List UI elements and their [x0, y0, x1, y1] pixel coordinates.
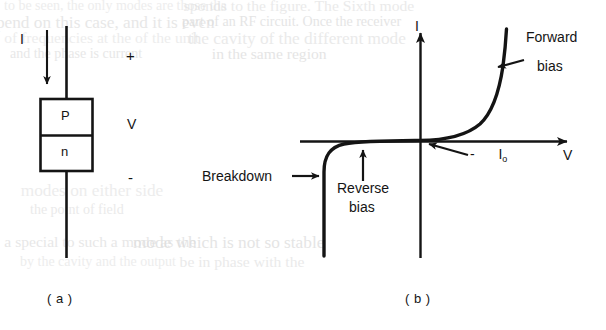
i-axis-label: I — [415, 18, 419, 34]
panel-a-current-label: I — [20, 31, 24, 47]
panel-a-minus-sign: - — [128, 169, 133, 186]
saturation-current-leader — [429, 144, 468, 155]
panel-b-caption: ( b ) — [405, 291, 431, 306]
panel-b-iv-characteristic — [292, 29, 567, 258]
panel-a-plus-sign: + — [126, 47, 135, 64]
reverse-bias-label-line2: bias — [349, 199, 375, 215]
forward-bias-label-line1: Forward — [526, 29, 577, 45]
saturation-minus-sign: - — [470, 146, 475, 162]
reverse-bias-label-line1: Reverse — [337, 180, 389, 196]
figure-diode-iv: to be seen, the only modes are those tha… — [0, 0, 606, 330]
breakdown-label: Breakdown — [202, 168, 272, 184]
panel-a-voltage-label: V — [127, 116, 136, 132]
forward-bias-label-line2: bias — [537, 58, 563, 74]
panel-a-caption: ( a ) — [47, 291, 73, 306]
figure-artwork — [0, 0, 606, 330]
n-region-label: n — [61, 144, 68, 159]
saturation-current-label: - Io — [470, 146, 507, 164]
v-axis-label: V — [563, 147, 572, 163]
panel-a-diode-schematic — [41, 26, 93, 258]
saturation-subscript: o — [502, 154, 507, 164]
p-region-label: P — [61, 108, 70, 123]
